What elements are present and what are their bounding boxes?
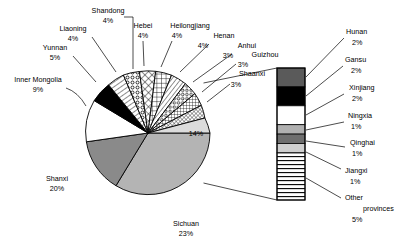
- pie-label-shanxi-pct: 20%: [50, 184, 65, 193]
- leader-inner-mongolia: [66, 88, 86, 106]
- bar-label-ningxia-name: Ningxia: [348, 111, 372, 120]
- bar-segment-xinjiang[interactable]: [277, 106, 305, 125]
- bar-label-qinghai: Qinghai 1%: [306, 138, 375, 158]
- bar-label-hunan-name: Hunan: [346, 27, 367, 36]
- bar-label-gansu-name: Gansu: [345, 55, 366, 64]
- pie-label-shanxi-name: Shanxi: [46, 174, 68, 183]
- pie-label-shandong: Shandong 4%: [92, 6, 133, 69]
- pie-label-inner-mongolia: Inner Mongolia 9%: [14, 75, 86, 106]
- leader-qinghai: [306, 141, 345, 147]
- pie-label-shanxi: Shanxi 20%: [46, 174, 68, 193]
- bar-label-ningxia-pct: 1%: [351, 122, 362, 131]
- pie-label-guizhou-pct: 3%: [238, 60, 249, 69]
- pie-label-hebei-name: Hebei: [134, 21, 153, 30]
- leader-other-provinces: [306, 178, 341, 198]
- bar-label-hunan-pct: 2%: [352, 38, 363, 47]
- pie-label-shandong-name: Shandong: [92, 6, 125, 15]
- bar-label-qinghai-name: Qinghai: [350, 138, 375, 147]
- pie-label-yunnan-pct: 5%: [50, 53, 61, 62]
- pie-label-liaoning-name: Liaoning: [59, 24, 86, 33]
- pie-label-henan-name: Henan: [213, 31, 234, 40]
- pie-label-hebei: Hebei 4%: [134, 21, 153, 66]
- pie-label-anhui-name: Anhui: [238, 41, 257, 50]
- bar-label-xinjiang-name: Xinjiang: [349, 83, 375, 92]
- leader-ningxia: [306, 122, 344, 130]
- bar-label-xinjiang-pct: 2%: [352, 94, 363, 103]
- bar-segment-ningxia[interactable]: [277, 125, 305, 134]
- pie-label-liaoning: Liaoning 4%: [59, 24, 116, 72]
- chart-canvas: 14% Shandong 4% Liaoning 4% Yunnan 5% In…: [0, 0, 400, 251]
- pie-label-heilongjiang-name: Heilongjiang: [170, 21, 210, 30]
- bar-label-other-line2: provinces: [363, 204, 394, 213]
- pie-label-sichuan: Sichuan 23%: [173, 219, 199, 238]
- leader-shandong: [124, 17, 133, 69]
- leader-xinjiang: [306, 94, 344, 115]
- bar-label-other-pct: 5%: [352, 215, 363, 224]
- leader-anhui: [193, 54, 232, 82]
- pie-and-bar-chart: 14% Shandong 4% Liaoning 4% Yunnan 5% In…: [0, 0, 400, 251]
- bar-segment-jiangxi[interactable]: [277, 144, 305, 153]
- pie-label-inner-mongolia-pct: 9%: [33, 85, 44, 94]
- leader-shaanxi: [207, 84, 230, 102]
- pie-label-shandong-pct: 4%: [103, 16, 114, 25]
- bar-label-jiangxi-name: Jiangxi: [345, 166, 368, 175]
- pie-label-shaanxi: Shaanxi 3%: [207, 69, 265, 102]
- connector-bottom: [204, 183, 278, 200]
- leader-liaoning: [92, 37, 116, 72]
- leader-hebei: [143, 41, 144, 66]
- bar-label-other-line1: Other: [345, 193, 364, 202]
- bar-label-jiangxi-pct: 1%: [350, 177, 361, 186]
- leader-heilongjiang: [161, 41, 172, 67]
- pie-label-heilongjiang-pct: 4%: [172, 31, 183, 40]
- pie-label-sichuan-name: Sichuan: [173, 219, 199, 228]
- pie-label-anhui-pct: 3%: [223, 51, 234, 60]
- pie-label-guizhou-name: Guizhou: [252, 50, 279, 59]
- leader-gansu: [306, 66, 343, 96]
- pie-label-other-group-pct: 14%: [189, 129, 204, 138]
- pie-label-inner-mongolia-name: Inner Mongolia: [14, 75, 62, 84]
- pie-label-liaoning-pct: 4%: [68, 34, 79, 43]
- pie-label-sichuan-pct: 23%: [179, 229, 194, 238]
- bar-segment-gansu[interactable]: [277, 87, 305, 106]
- bar-label-ningxia: Ningxia 1%: [306, 111, 372, 131]
- leader-henan: [180, 44, 209, 72]
- leader-yunnan: [73, 56, 96, 82]
- pie-label-yunnan-name: Yunnan: [43, 43, 67, 52]
- bar-label-gansu-pct: 2%: [351, 66, 362, 75]
- pie-label-shaanxi-pct: 3%: [231, 80, 242, 89]
- pie-label-shaanxi-name: Shaanxi: [239, 69, 265, 78]
- bar-label-qinghai-pct: 1%: [352, 149, 363, 158]
- pie-label-hebei-pct: 4%: [138, 31, 149, 40]
- leader-hunan: [306, 38, 344, 77]
- leader-jiangxi: [306, 152, 341, 169]
- bar-segment-qinghai[interactable]: [277, 134, 305, 143]
- breakout-bar: [277, 68, 305, 200]
- bar-segment-hunan[interactable]: [277, 68, 305, 87]
- bar-segment-other-provinces[interactable]: [277, 153, 305, 200]
